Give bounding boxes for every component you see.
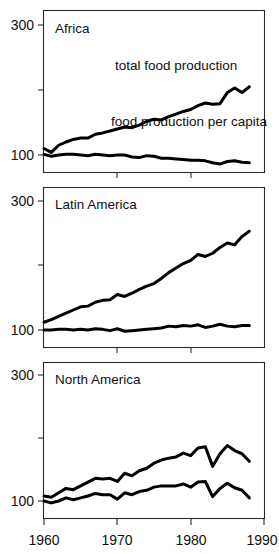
panel-north-america: 300 100 North America 1960 1970 1980 199… xyxy=(11,363,278,549)
panel-latin-america-ylabel-300: 300 xyxy=(11,193,35,209)
xaxis-label-1980: 1980 xyxy=(175,532,206,548)
panel-latin-america-title: Latin America xyxy=(55,197,137,212)
panel-africa-ylabel-300: 300 xyxy=(11,17,35,33)
food-production-figure: 300 100 Africa total food production foo… xyxy=(0,0,279,554)
panel-latin-america-ylabel-100: 100 xyxy=(11,322,35,338)
panel-africa-ylabel-100: 100 xyxy=(11,147,35,163)
panel-latin-america: 300 100 Latin America xyxy=(11,188,265,354)
xaxis-label-1990: 1990 xyxy=(246,532,277,548)
panel-africa-title: Africa xyxy=(55,21,90,36)
panel-north-america-ylabel-300: 300 xyxy=(11,367,35,383)
panel-north-america-ylabel-100: 100 xyxy=(11,493,35,509)
panel-africa: 300 100 Africa total food production foo… xyxy=(11,11,268,179)
xaxis-label-1970: 1970 xyxy=(101,532,132,548)
panel-north-america-title: North America xyxy=(55,372,141,387)
annotation-total-food-production: total food production xyxy=(115,58,237,73)
xaxis-label-1960: 1960 xyxy=(28,532,59,548)
chart-svg: 300 100 Africa total food production foo… xyxy=(0,0,279,554)
